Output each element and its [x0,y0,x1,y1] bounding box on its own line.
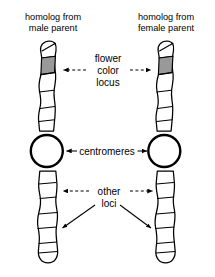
header-left: homolog from male parent [25,12,82,33]
right-lower-arm [155,171,175,263]
left-flower-locus-band [41,56,56,74]
left-upper-arm [38,41,56,131]
right-centromere [148,135,180,167]
left-centromere [31,135,63,167]
flower-locus-label: flower color locus [95,53,122,88]
diagram-canvas: homolog from male parent homolog from fe… [0,0,215,277]
chromosome-right [148,41,180,263]
other-loci-line1: other [98,186,121,197]
header-left-line2: male parent [29,23,78,33]
header-left-line1: homolog from [25,12,82,22]
other-loci-arrow-diagonal-right [120,205,151,228]
left-lower-arm [38,171,58,263]
header-right-line1: homolog from [138,12,195,22]
chromosome-left [31,41,63,263]
other-loci-line2: loci [101,198,116,209]
centromeres-label: centromeres [79,146,135,157]
right-flower-locus-band [158,56,173,74]
header-right-line2: female parent [138,23,195,33]
other-loci-label: other loci [98,186,121,209]
other-loci-arrow-diagonal-left [63,205,96,228]
chromosome-diagram: homolog from male parent homolog from fe… [0,0,215,277]
flower-locus-line2: color [97,65,119,76]
flower-locus-line3: locus [96,77,119,88]
right-upper-arm [156,41,174,131]
header-right: homolog from female parent [138,12,195,33]
flower-locus-line1: flower [95,53,122,64]
